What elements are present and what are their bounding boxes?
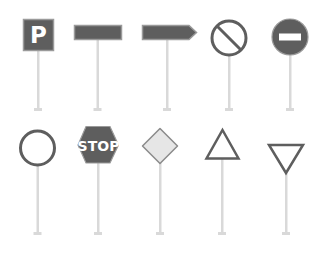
no-parking-sign [212, 21, 246, 111]
diamond-plate [143, 129, 178, 164]
warning-triangle-sign [207, 130, 239, 235]
pole [37, 51, 40, 109]
pole [285, 173, 288, 233]
pole-base [94, 108, 102, 111]
pole [97, 163, 100, 233]
pole [289, 55, 292, 109]
priority-road-sign [143, 129, 178, 236]
triangle-down-plate [269, 145, 303, 173]
pole [37, 166, 40, 233]
stop-label: STOP [78, 138, 120, 154]
rectangle-plate [75, 26, 122, 40]
arrow-plate-sign [143, 26, 197, 112]
road-signs-canvas: P STOP [0, 0, 325, 256]
pole-base [94, 232, 102, 235]
parking-label: P [30, 22, 47, 48]
rectangular-plate-sign [75, 26, 122, 112]
pole-base [156, 232, 164, 235]
pole [159, 163, 162, 233]
pole [166, 40, 169, 109]
circle-ring [21, 131, 55, 165]
pole [228, 56, 231, 109]
parking-sign: P [24, 20, 54, 112]
pole-base [34, 232, 42, 235]
arrow-plate [143, 26, 197, 40]
pole [221, 159, 224, 233]
pole-base [163, 108, 171, 111]
pole-base [218, 232, 226, 235]
pole-base [282, 232, 290, 235]
pole [97, 40, 100, 109]
pole-base [34, 108, 42, 111]
no-entry-sign [272, 19, 308, 111]
pole-base [225, 108, 233, 111]
stop-sign: STOP [78, 127, 120, 236]
pole-base [286, 108, 294, 111]
white-bar [279, 34, 301, 41]
empty-circle-sign [21, 131, 55, 235]
yield-sign [269, 145, 303, 235]
triangle-up-plate [207, 130, 239, 159]
